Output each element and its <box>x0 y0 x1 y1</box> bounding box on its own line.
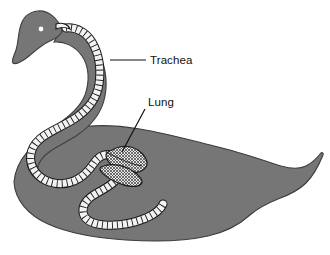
diagram-labels: Trachea Lung <box>148 54 193 108</box>
swan-diagram-canvas: Trachea Lung <box>0 0 330 255</box>
head-and-beak-shape <box>12 11 62 64</box>
swan-head <box>12 11 62 64</box>
swan-anatomy-diagram: Trachea Lung <box>0 0 330 255</box>
trachea-label: Trachea <box>150 54 193 66</box>
lung-label: Lung <box>148 96 174 108</box>
swan-eye <box>39 27 44 32</box>
